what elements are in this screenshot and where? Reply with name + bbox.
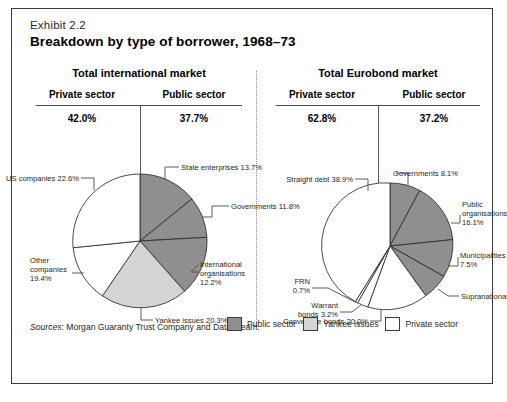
legend-swatch-private-sector	[385, 317, 400, 331]
source-prefix: Sources	[30, 322, 62, 332]
pie-slices	[322, 183, 453, 310]
source-note: Sources: Morgan Guaranty Trust Company a…	[30, 322, 260, 332]
pie-slices	[73, 174, 207, 308]
label-municipalities-2: 7.5%	[460, 260, 478, 269]
label-other-companies-2: companies	[30, 265, 67, 274]
chart-panel-international: Total international market Private secto…	[22, 67, 256, 357]
label-frn-2: 0.7%	[293, 286, 311, 295]
legend-item-yankee-issues: Yankee issues	[303, 317, 378, 331]
legend-item-public-sector: Public sector	[227, 317, 296, 331]
legend-swatch-public-sector	[227, 317, 242, 331]
label-governments: Governments 8.1%	[393, 169, 458, 178]
panel-divider	[256, 71, 257, 326]
label-public-organisations-3: 16.1%	[462, 218, 484, 227]
label-international-organisations-1: International	[200, 260, 242, 269]
label-warrant-bonds-1: Warrant	[311, 301, 339, 310]
label-international-organisations-2: organisations	[200, 269, 245, 278]
pie-chart-international: State enterprises 13.7% Governments 11.8…	[22, 67, 256, 317]
legend-label-public-sector: Public sector	[247, 319, 296, 329]
label-frn-1: FRN	[294, 277, 310, 286]
slice-us-companies	[73, 174, 140, 248]
label-supranationals: Supranationals 5.5%	[461, 292, 507, 301]
exhibit-header: Exhibit 2.2 Breakdown by type of borrowe…	[30, 19, 296, 49]
chart-panel-eurobond: Total Eurobond market Private sector Pub…	[262, 67, 494, 357]
legend-swatch-yankee-issues	[303, 317, 318, 331]
exhibit-panel: Exhibit 2.2 Breakdown by type of borrowe…	[11, 8, 493, 384]
exhibit-title: Breakdown by type of borrower, 1968–73	[30, 34, 296, 49]
chart-legend: Public sector Yankee issues Private sect…	[227, 317, 458, 331]
label-straight-debt: Straight debt 38.9%	[286, 175, 353, 184]
label-other-companies-3: 19.4%	[30, 274, 52, 283]
label-other-companies-1: Other	[30, 256, 49, 265]
label-public-organisations-2: organisations	[462, 209, 507, 218]
label-state-enterprises: State enterprises 13.7%	[181, 163, 262, 172]
legend-item-private-sector: Private sector	[385, 317, 458, 331]
label-international-organisations-3: 12.2%	[200, 278, 222, 287]
label-public-organisations-1: Public	[462, 200, 483, 209]
label-us-companies: US companies 22.6%	[6, 174, 79, 183]
legend-label-yankee-issues: Yankee issues	[323, 319, 378, 329]
label-municipalities-1: Municipalities	[460, 251, 506, 260]
legend-label-private-sector: Private sector	[405, 319, 458, 329]
exhibit-number: Exhibit 2.2	[30, 19, 296, 31]
pie-chart-eurobond: Governments 8.1% Public organisations 16…	[262, 67, 494, 317]
